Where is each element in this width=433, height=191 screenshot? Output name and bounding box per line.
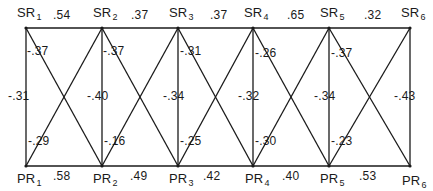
bottom-edge-weight-3-4: .42 <box>203 170 220 182</box>
node-dot-pr6 <box>408 164 411 167</box>
diagonal-down-weight-4: -.26 <box>255 47 276 59</box>
diagonal-down-weight-1: -.37 <box>27 45 48 57</box>
node-dot-sr2 <box>100 26 103 29</box>
top-edge-weight-2-3: .37 <box>131 9 148 21</box>
diagonal-up-weight-1: -.29 <box>28 135 49 147</box>
node-dot-sr5 <box>327 26 330 29</box>
bottom-edge-weight-2-3: .49 <box>130 170 147 182</box>
top-edge-weight-1-2: .54 <box>53 9 70 21</box>
node-dot-sr1 <box>24 26 27 29</box>
top-edge-weight-5-6: .32 <box>364 9 381 21</box>
diagonal-up-weight-2: -.16 <box>104 135 125 147</box>
vertical-weight-2: -.40 <box>87 90 108 102</box>
node-sr5: SR5 <box>320 6 345 24</box>
node-pr3: PR3 <box>169 172 194 190</box>
node-dot-sr6 <box>408 26 411 29</box>
diagonal-up-weight-3: -.25 <box>180 135 201 147</box>
node-dot-sr4 <box>251 26 254 29</box>
node-dot-pr2 <box>100 164 103 167</box>
node-pr1: PR1 <box>17 172 42 190</box>
vertical-weight-4: -.32 <box>238 90 259 102</box>
node-dot-pr3 <box>176 164 179 167</box>
diagonal-up-weight-5: -.23 <box>331 135 352 147</box>
diagram-lines <box>0 0 433 191</box>
bottom-edge-weight-5-6: .53 <box>359 170 376 182</box>
vertical-weight-1: -.31 <box>8 90 29 102</box>
node-dot-pr1 <box>24 164 27 167</box>
node-pr2: PR2 <box>93 172 118 190</box>
node-sr3: SR3 <box>169 6 194 24</box>
bottom-edge-weight-4-5: .40 <box>282 170 299 182</box>
node-pr5: PR5 <box>320 172 345 190</box>
node-dot-pr5 <box>327 164 330 167</box>
vertical-weight-3: -.34 <box>163 90 184 102</box>
node-dot-sr3 <box>176 26 179 29</box>
vertical-weight-5: -.34 <box>314 90 335 102</box>
node-sr2: SR2 <box>93 6 118 24</box>
correlation-diagram: SR1 SR2 SR3 SR4 SR5 SR6 PR1 PR2 PR3 PR4 … <box>0 0 433 191</box>
node-pr4: PR4 <box>245 172 270 190</box>
bottom-edge-weight-1-2: .58 <box>53 170 70 182</box>
diagonal-down-weight-2: -.37 <box>103 45 124 57</box>
diagonal-down-weight-5: -.37 <box>331 47 352 59</box>
node-pr6: PR6 <box>402 174 427 191</box>
node-sr6: SR6 <box>401 6 426 24</box>
node-sr1: SR1 <box>17 6 42 24</box>
top-edge-weight-4-5: .65 <box>287 9 304 21</box>
node-sr4: SR4 <box>244 6 269 24</box>
top-edge-weight-3-4: .37 <box>210 9 227 21</box>
vertical-weight-6: -.43 <box>394 90 415 102</box>
diagonal-up-weight-4: -.30 <box>255 135 276 147</box>
diagonal-down-weight-3: -.31 <box>180 45 201 57</box>
node-dot-pr4 <box>251 164 254 167</box>
